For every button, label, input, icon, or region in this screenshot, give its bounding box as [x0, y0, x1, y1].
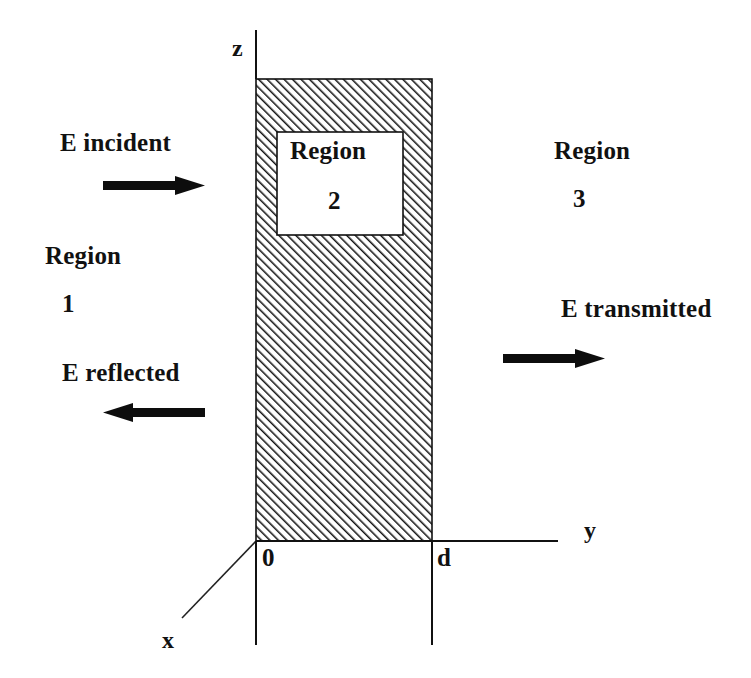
region-3-name: Region [554, 138, 630, 163]
x-axis [182, 541, 256, 618]
region-2-name: Region [290, 138, 366, 163]
incident-arrow [103, 176, 205, 195]
figure-svg [0, 0, 751, 678]
reflected-wave-label: E reflected [62, 360, 180, 385]
reflected-arrow [103, 403, 205, 422]
region-1-number: 1 [62, 291, 75, 316]
diagram-canvas: z y x 0 d E incident E reflected E trans… [0, 0, 751, 678]
z-axis-label: z [232, 36, 243, 60]
incident-wave-label: E incident [60, 130, 171, 155]
x-axis-label: x [162, 628, 174, 652]
transmitted-arrow [503, 349, 605, 368]
region-3-number: 3 [573, 186, 586, 211]
tick-label-zero: 0 [262, 545, 275, 570]
tick-label-d: d [437, 545, 451, 570]
y-axis-label: y [584, 518, 596, 542]
region-2-number: 2 [328, 188, 341, 213]
transmitted-wave-label: E transmitted [561, 296, 712, 321]
region-1-name: Region [45, 243, 121, 268]
